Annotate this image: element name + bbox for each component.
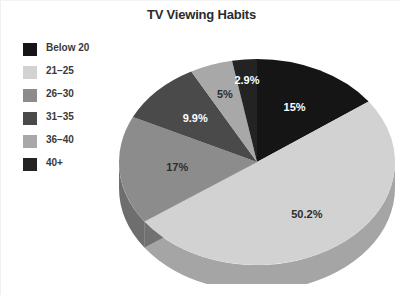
legend-item-label: 26–30 [46,88,74,100]
pie-slice-label: 50.2% [291,208,322,220]
pie-slice-label: 9.9% [183,112,208,124]
legend-swatch-icon [23,135,37,148]
pie-chart: 15%50.2%17%9.9%5%2.9% [119,34,395,284]
pie-slices [119,59,395,265]
pie-slice-label: 5% [217,88,233,100]
legend-item[interactable]: 26–30 [23,88,119,111]
pie-slice-label: 15% [284,101,306,113]
legend-item-label: 40+ [46,157,63,169]
pie-chart-svg: 15%50.2%17%9.9%5%2.9% [119,34,395,284]
legend-swatch-icon [23,89,37,102]
pie-slice-label: 2.9% [234,74,259,86]
pie-slice-label: 17% [166,161,188,173]
legend-swatch-icon [23,43,37,56]
legend-item[interactable]: 36–40 [23,134,119,157]
chart-canvas: TV Viewing Habits Below 20 21–25 26–30 3… [0,0,401,295]
page-title: TV Viewing Habits [1,7,401,22]
legend-item[interactable]: 21–25 [23,65,119,88]
legend-swatch-icon [23,158,37,171]
legend-swatch-icon [23,112,37,125]
legend-item-label: 21–25 [46,65,74,77]
legend-item-label: Below 20 [46,42,89,54]
legend-item[interactable]: 31–35 [23,111,119,134]
legend-swatch-icon [23,66,37,79]
legend-item[interactable]: Below 20 [23,42,119,65]
chart-legend: Below 20 21–25 26–30 31–35 36–40 40+ [23,42,119,180]
legend-item-label: 36–40 [46,134,74,146]
legend-item[interactable]: 40+ [23,157,119,180]
legend-item-label: 31–35 [46,111,74,123]
